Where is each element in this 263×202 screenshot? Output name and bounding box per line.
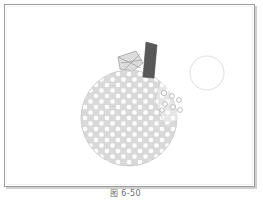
figure-caption: 图 6-50	[0, 189, 251, 199]
apple-body	[81, 70, 183, 166]
seed-ring-icon	[161, 90, 166, 95]
empty-reference-circle	[190, 56, 224, 90]
polka-dot-apple-illustration	[5, 5, 256, 188]
apple-stem	[143, 42, 157, 78]
seed-ring-icon	[160, 108, 164, 112]
seed-ring-icon	[163, 102, 168, 107]
seed-ring-icon	[171, 105, 176, 110]
figure-page: 图 6-50	[0, 0, 263, 202]
seed-ring-icon	[170, 94, 175, 99]
leaf-shape	[118, 51, 143, 71]
seed-ring-icon	[177, 98, 182, 103]
seed-ring-icon	[178, 108, 183, 113]
figure-frame	[4, 4, 255, 187]
illustration-canvas	[5, 5, 256, 188]
